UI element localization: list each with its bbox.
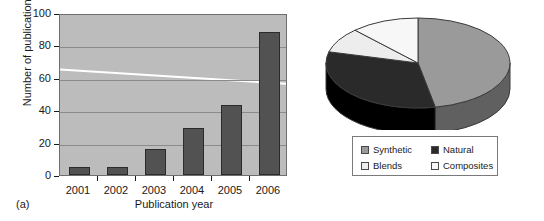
x-tick-label-2002: 2002 — [97, 184, 135, 196]
legend-swatch-composites — [431, 162, 439, 170]
x-tick-label-2005: 2005 — [211, 184, 249, 196]
bar-2004 — [183, 128, 204, 175]
legend-label-composites: Composites — [443, 160, 493, 171]
x-tick-mark-2002 — [97, 176, 98, 181]
legend-item-blends[interactable]: Blends — [361, 160, 402, 171]
y-tick-mark-0 — [54, 176, 59, 177]
legend-item-natural[interactable]: Natural — [431, 144, 474, 155]
bar-2005 — [221, 105, 242, 175]
x-tick-mark-2006 — [249, 176, 250, 181]
legend-swatch-synthetic — [361, 146, 369, 154]
legend-item-synthetic[interactable]: Synthetic — [361, 144, 412, 155]
panel-b-pie-chart: Synthetic Natural Blends Composites (b) — [300, 0, 544, 221]
x-tick-label-2004: 2004 — [173, 184, 211, 196]
gridline — [60, 80, 286, 81]
x-tick-mark-2004 — [173, 176, 174, 181]
gridline — [60, 145, 286, 146]
y-tick-label-40: 40 — [0, 105, 51, 116]
x-tick-mark-2005 — [211, 176, 212, 181]
bar-2002 — [107, 167, 128, 175]
x-axis-label: Publication year — [60, 198, 288, 210]
y-tick-mark-20 — [54, 144, 59, 145]
x-tick-mark-2003 — [135, 176, 136, 181]
y-tick-mark-100 — [54, 14, 59, 15]
y-tick-label-80: 80 — [0, 40, 51, 51]
bar-2003 — [145, 149, 166, 175]
figure-two-panel: Number of publications 020406080100 2001… — [0, 0, 544, 221]
trend-line — [60, 15, 286, 175]
legend-label-blends: Blends — [373, 160, 402, 171]
x-tick-label-2006: 2006 — [249, 184, 287, 196]
y-tick-mark-80 — [54, 46, 59, 47]
y-tick-label-60: 60 — [0, 73, 51, 84]
legend-swatch-natural — [431, 146, 439, 154]
bar-plot-area — [59, 14, 287, 176]
gridline — [60, 112, 286, 113]
x-tick-label-2001: 2001 — [59, 184, 97, 196]
legend-label-synthetic: Synthetic — [373, 144, 412, 155]
legend-swatch-blends — [361, 162, 369, 170]
y-tick-mark-60 — [54, 79, 59, 80]
pie-graphic — [308, 8, 536, 130]
y-tick-label-0: 0 — [0, 170, 51, 181]
y-tick-label-20: 20 — [0, 138, 51, 149]
gridline — [60, 47, 286, 48]
bar-2001 — [69, 167, 90, 175]
y-tick-mark-40 — [54, 111, 59, 112]
x-tick-label-2003: 2003 — [135, 184, 173, 196]
panel-a-tag: (a) — [16, 198, 29, 210]
panel-a-bar-chart: Number of publications 020406080100 2001… — [0, 0, 300, 221]
y-tick-label-100: 100 — [0, 8, 51, 19]
legend-item-composites[interactable]: Composites — [431, 160, 493, 171]
legend-label-natural: Natural — [443, 144, 474, 155]
pie-legend: Synthetic Natural Blends Composites — [352, 136, 498, 176]
bar-2006 — [259, 32, 280, 175]
